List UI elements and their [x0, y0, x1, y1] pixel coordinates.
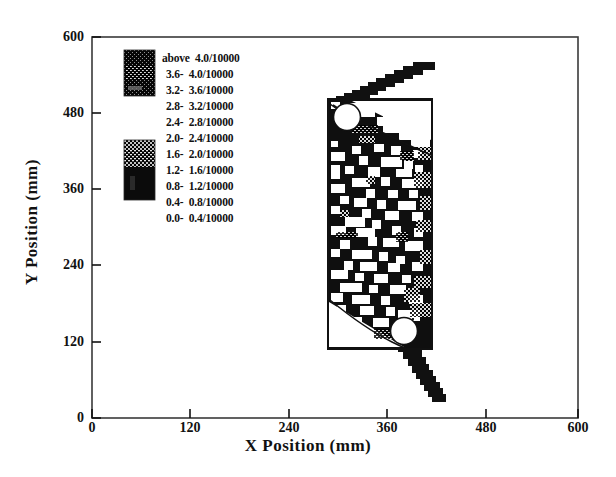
legend-entry-5: 2.0- 2.4/10000 [166, 132, 233, 144]
legend-entry-0: above 4.0/10000 [162, 52, 240, 64]
x-tick-360: 360 [357, 420, 417, 436]
x-tick-120: 120 [160, 420, 220, 436]
legend-entry-6: 1.6- 2.0/10000 [166, 148, 233, 160]
legend-entry-1: 3.6- 4.0/10000 [166, 68, 233, 80]
legend-swatch-upper [124, 50, 155, 96]
legend-swatch-lower [124, 140, 155, 200]
density-cells [328, 99, 432, 354]
y-tick-120: 120 [24, 334, 84, 350]
x-tick-480: 480 [456, 420, 516, 436]
legend-entry-4: 2.4- 2.8/10000 [166, 116, 233, 128]
legend-entry-2: 3.2- 3.6/10000 [166, 84, 233, 96]
y-axis-label: Y Position (mm) [22, 112, 42, 332]
figure-canvas: 0 120 240 360 480 600 0 120 240 360 480 … [0, 0, 616, 477]
legend-entry-9: 0.4- 0.8/10000 [166, 196, 233, 208]
y-axis-ticks [92, 37, 101, 418]
x-tick-600: 600 [548, 420, 608, 436]
legend-entry-3: 2.8- 3.2/10000 [166, 100, 233, 112]
y-tick-600: 600 [24, 29, 84, 45]
y-tick-0: 0 [24, 410, 84, 426]
x-axis-ticks [92, 409, 578, 418]
legend-entry-7: 1.2- 1.6/10000 [166, 164, 233, 176]
contour-band-lower [398, 343, 446, 402]
x-tick-240: 240 [259, 420, 319, 436]
data-region [328, 62, 446, 402]
plot-svg [0, 0, 616, 477]
legend-entry-10: 0.0- 0.4/10000 [166, 212, 233, 224]
x-axis-label: X Position (mm) [0, 436, 616, 456]
legend-entry-8: 0.8- 1.2/10000 [166, 180, 233, 192]
